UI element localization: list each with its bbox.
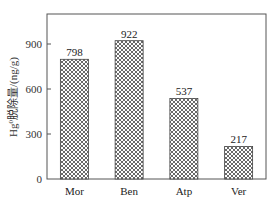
bar-value-labels: 798922537217 bbox=[66, 28, 247, 146]
y-tick-label: 600 bbox=[26, 83, 43, 95]
category-label: Ben bbox=[120, 185, 138, 197]
bar-ver bbox=[225, 146, 253, 179]
y-axis-title: Hg0脱除量/(ng/g) bbox=[6, 57, 20, 137]
bar-ben bbox=[115, 41, 143, 179]
bar-mor bbox=[60, 59, 88, 179]
y-tick-label: 0 bbox=[37, 173, 43, 185]
bar-value-label: 922 bbox=[121, 28, 138, 40]
bar-value-label: 217 bbox=[230, 133, 247, 145]
y-axis-title-base: Hg bbox=[7, 123, 19, 137]
category-label: Mor bbox=[65, 185, 84, 197]
y-tick-label: 300 bbox=[26, 128, 43, 140]
bar-atp bbox=[170, 98, 198, 179]
y-axis-title-rest: 脱除量/(ng/g) bbox=[6, 57, 20, 120]
category-label: Ver bbox=[231, 185, 247, 197]
x-axis-category-labels: MorBenAtpVer bbox=[65, 185, 247, 197]
y-tick-label: 900 bbox=[26, 38, 43, 50]
y-axis-ticks bbox=[47, 44, 51, 134]
bar-value-label: 798 bbox=[66, 46, 83, 58]
bar-value-label: 537 bbox=[176, 85, 193, 97]
bars bbox=[60, 41, 252, 179]
y-axis-tick-labels: 0300600900 bbox=[26, 38, 43, 185]
category-label: Atp bbox=[176, 185, 193, 197]
bar-chart: 0300600900 798922537217 MorBenAtpVer Hg0… bbox=[0, 0, 276, 205]
